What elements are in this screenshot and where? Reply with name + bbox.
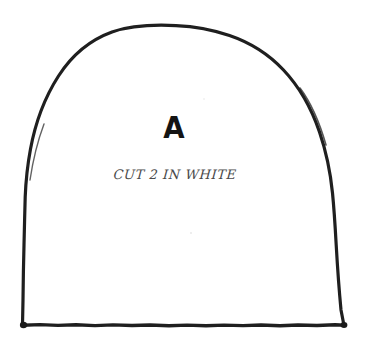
ink-thickening-left-shoulder: [30, 124, 44, 180]
pattern-sheet: A CUT 2 IN WHITE: [0, 0, 365, 349]
corner-ink-blob-left: [20, 322, 27, 328]
corner-ink-blob-right: [341, 322, 348, 328]
arch-outline-path: [23, 25, 344, 324]
arch-base-line: [23, 325, 345, 326]
pattern-outline-drawing: [0, 0, 365, 349]
